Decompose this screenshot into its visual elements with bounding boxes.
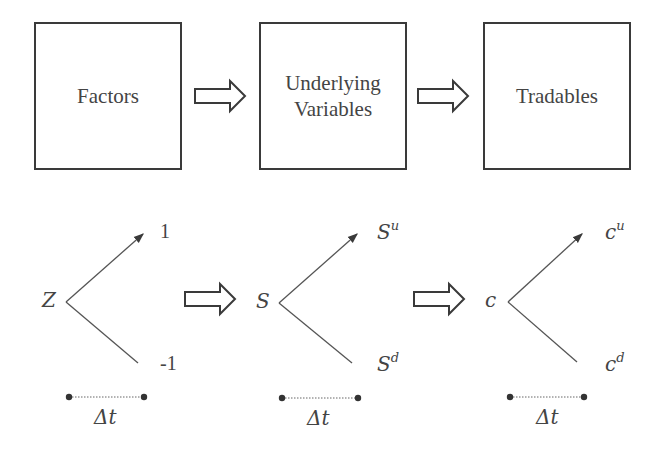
tree1-down: -1 [160,352,177,375]
tree1-root: Z [42,288,56,312]
tree2-up: Su [377,218,399,244]
tree3-interval: Δt [536,405,558,429]
interval-markers [66,394,587,401]
tree3-down: cd [605,350,625,376]
tree3-root: c [485,288,496,312]
diagram-lines [0,0,663,454]
block-arrow-icon [185,81,468,314]
tree1-interval: Δt [94,405,116,429]
tree2-down: Sd [377,350,399,376]
tree2-root: S [256,289,270,313]
tree1-up: 1 [160,220,170,243]
tree2-interval: Δt [307,406,329,430]
tree3-up: cu [605,218,625,244]
